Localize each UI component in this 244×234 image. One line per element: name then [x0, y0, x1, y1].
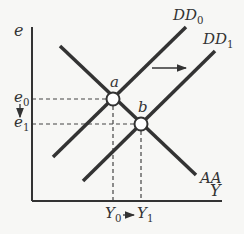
- point-label-b: b: [138, 98, 148, 116]
- point-a: [107, 93, 120, 106]
- x-tick-Y0: Y0: [105, 204, 121, 224]
- curve-label-AA: AA: [198, 169, 222, 187]
- point-label-a: a: [110, 73, 119, 91]
- curves: [53, 27, 215, 181]
- curve-DD1: [83, 51, 215, 181]
- x-tick-Y1: Y1: [137, 204, 153, 224]
- point-b: [135, 118, 148, 131]
- curve-DD0: [53, 27, 186, 157]
- curve-label-DD0: DD0: [172, 6, 204, 26]
- curve-AA: [60, 46, 196, 175]
- labels: eYAADD0DD1abe0e1Y0Y1: [14, 6, 234, 224]
- guide-dashes: [32, 99, 141, 201]
- y-axis-label: e: [14, 21, 23, 40]
- ad-aa-diagram: eYAADD0DD1abe0e1Y0Y1: [0, 0, 244, 234]
- curve-label-DD1: DD1: [202, 30, 234, 50]
- y-tick-e1: e1: [14, 113, 29, 133]
- y-tick-e0: e0: [14, 88, 29, 108]
